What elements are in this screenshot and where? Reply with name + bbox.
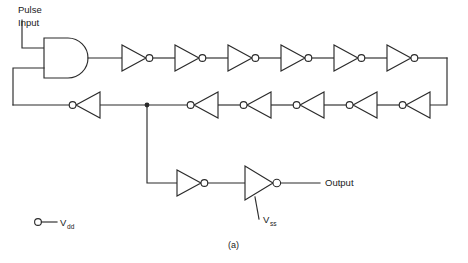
inverter-mid-4[interactable] [218, 92, 271, 118]
inverter-mid-1[interactable] [377, 92, 430, 118]
output-label: Output [325, 177, 354, 188]
figure-caption: (a) [228, 240, 239, 250]
middle-inverter-chain [100, 92, 430, 118]
vss-subscript: ss [270, 220, 277, 227]
inverter-top-6[interactable] [387, 45, 447, 71]
vdd-label: V [60, 217, 67, 228]
pulse-input-label-line1: Pulse [18, 4, 42, 15]
inverter-top-4[interactable] [281, 45, 334, 71]
inverter-mid-5[interactable] [100, 92, 218, 118]
inverter-top-1[interactable] [122, 45, 175, 71]
vss-label: V [263, 214, 270, 225]
inverter-top-3[interactable] [228, 45, 281, 71]
top-inverter-chain [122, 45, 447, 71]
inverter-out-1[interactable] [177, 170, 245, 196]
circuit-diagram-figure: Pulse Input Output V dd V ss (a) [0, 0, 468, 263]
inverter-mid-3[interactable] [271, 92, 324, 118]
inverter-out-2[interactable] [245, 166, 281, 219]
schematic-canvas: Pulse Input Output V dd V ss (a) [0, 0, 468, 263]
inverter-top-2[interactable] [175, 45, 228, 71]
output-inverter-chain [177, 166, 281, 219]
inverter-mid-6[interactable] [13, 92, 100, 118]
inverter-top-5[interactable] [334, 45, 387, 71]
vdd-terminal[interactable] [35, 219, 57, 226]
vdd-subscript: dd [67, 223, 75, 230]
junction-tap [145, 103, 177, 183]
inverter-mid-2[interactable] [324, 92, 377, 118]
pulse-input-label-line2: Input [18, 17, 39, 28]
right-feedback-wire [430, 58, 447, 105]
